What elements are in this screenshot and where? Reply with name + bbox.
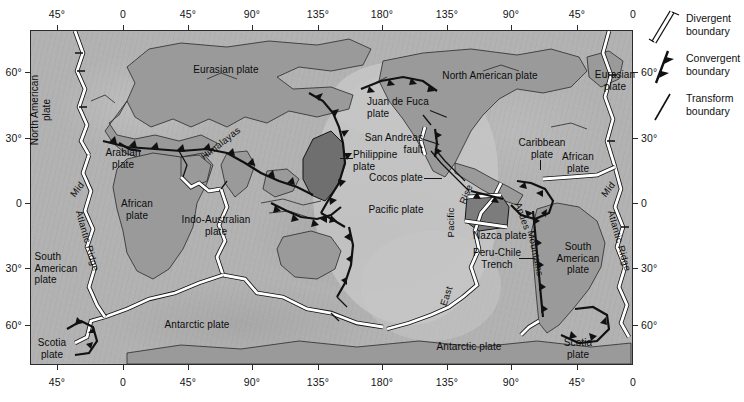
left-axis-label-3: 30° [0,262,22,274]
top-axis-label-5: 180° [371,8,394,20]
transform-boundary-symbol [648,88,682,126]
legend-label-divergent: Divergent boundary [686,12,731,37]
convergent-boundary-symbol [648,48,682,86]
pacific-plate-label: Pacific plate [368,204,423,216]
scotia-plate-right-label: Scotia plate [564,337,592,360]
top-axis-label-7: 90° [503,8,519,20]
top-axis-label-4: 135° [307,8,330,20]
bottom-axis-label-2: 45° [180,376,196,388]
top-axis-label-6: 135° [436,8,459,20]
legend-item-divergent: Divergent boundary [648,8,740,48]
legend-item-transform: Transform boundary [648,88,740,128]
bottom-axis-label-6: 135° [436,376,459,388]
landmasses [91,39,631,364]
right-axis-label-4: 60° [641,319,657,331]
top-axis-label-3: 90° [244,8,260,20]
nazca-plate-label: Nazca plate [473,230,527,242]
top-axis-label-0: 45° [49,8,65,20]
bottom-axis-label-3: 90° [244,376,260,388]
map-legend: Divergent boundary Convergent boundary T… [648,8,740,128]
legend-label-convergent: Convergent boundary [686,52,740,77]
top-axis-label-8: 45° [569,8,585,20]
south-american-plate-left-label: South American plate [34,251,77,286]
antarctic-plate-left-label: Antarctic plate [165,319,230,331]
divergent-boundary-symbol [648,8,682,46]
eurasian-plate-label: Eurasian plate [193,64,258,76]
left-axis-label-2: 0 [0,197,22,209]
north-american-plate-label: North American plate [442,70,537,82]
right-axis-label-3: 30° [641,262,657,274]
cocos-plate-label: Cocos plate [369,172,423,184]
bottom-axis-label-9: 0 [630,376,636,388]
north-american-plate-left-label: North American plate [29,75,52,145]
bottom-axis-label-0: 45° [49,376,65,388]
tectonic-plates-figure: .land{fill:#9a9a9a;stroke:#2a2a2a;stroke… [0,0,744,402]
bottom-axis-label-8: 45° [569,376,585,388]
right-axis-label-1: 30° [641,132,657,144]
arabian-plate-label: Arabian plate [105,147,140,170]
indo-australian-plate-label: Indo-Australian plate [182,214,251,237]
scotia-plate-left-label: Scotia plate [38,337,66,360]
top-axis-label-9: 0 [630,8,636,20]
legend-label-transform: Transform boundary [686,92,733,117]
right-axis-label-2: 0 [641,197,647,209]
top-axis-label-2: 45° [180,8,196,20]
san-andreas-fault-label: San Andreas fault [365,132,423,155]
caribbean-plate-label: Caribbean plate [518,137,565,160]
bottom-axis-label-7: 90° [503,376,519,388]
juan-de-fuca-plate-label: Juan de Fuca plate [367,96,429,119]
eurasian-plate-right-label: Eurasian plate [595,69,635,92]
peru-chile-trench-label: Peru-Chile Trench [473,247,521,270]
antarctic-plate-right-label: Antarctic plate [437,341,502,353]
left-axis-label-1: 30° [0,132,22,144]
left-axis-label-0: 60° [0,66,22,78]
east-pacific-rise-label-pacific: Pacific [445,207,456,237]
left-axis-label-4: 60° [0,319,22,331]
south-american-plate-label: South American plate [556,241,599,276]
african-plate-label: African plate [121,198,153,221]
african-plate-right-label: African plate [562,151,594,174]
legend-item-convergent: Convergent boundary [648,48,740,88]
top-axis-label-1: 0 [120,8,126,20]
bottom-axis-label-5: 180° [371,376,394,388]
bottom-axis-label-4: 135° [307,376,330,388]
bottom-axis-label-1: 0 [120,376,126,388]
